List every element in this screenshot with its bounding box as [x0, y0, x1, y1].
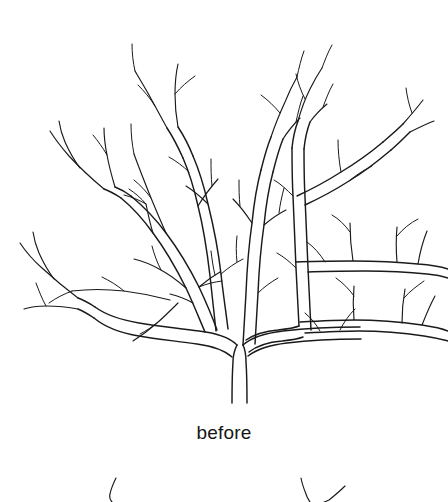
next-figure-partial: [0, 455, 448, 502]
left-outer-twigs: [20, 232, 78, 309]
right-vertical-limb-top-twigs: [296, 45, 333, 122]
right-branch-tier-2: [296, 215, 448, 278]
trunk-group: [232, 345, 247, 403]
right-branch-tier-3: [300, 278, 448, 341]
right-leaning-limb-group: [243, 137, 283, 345]
next-figure-twig-fragments: [110, 478, 345, 502]
left-lower-branch: [49, 277, 178, 341]
right-vertical-limb-group: [246, 121, 311, 352]
figure-caption-before: before: [0, 421, 448, 445]
center-limb-group: [167, 127, 228, 331]
right-branch-tier-1: [297, 88, 434, 205]
left-limb-upper-twigs: [50, 121, 115, 189]
left-upper-fan: [129, 124, 166, 233]
tree-illustration: [0, 0, 448, 415]
page-canvas: before: [0, 0, 448, 502]
left-main-limb-group: [104, 187, 217, 332]
